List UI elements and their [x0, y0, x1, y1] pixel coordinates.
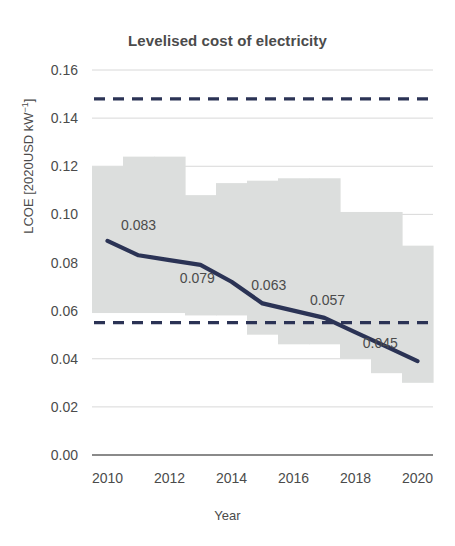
- plot-area: [0, 0, 455, 546]
- data-point-label: 0.079: [180, 270, 215, 286]
- data-point-label: 0.083: [121, 217, 156, 233]
- data-point-label: 0.045: [363, 335, 398, 351]
- data-point-label: 0.063: [251, 277, 286, 293]
- data-point-label: 0.057: [310, 292, 345, 308]
- chart-container: Levelised cost of electricity LCOE [2020…: [0, 0, 455, 546]
